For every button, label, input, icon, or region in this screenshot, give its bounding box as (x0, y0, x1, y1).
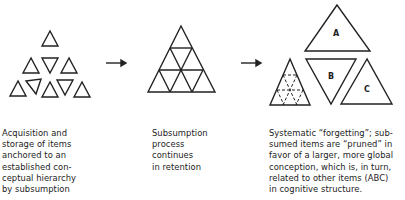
item-triangle-inverted (42, 58, 58, 73)
caption-forgetting: Systematic “forgetting”; sub- sumed item… (269, 128, 393, 195)
caption-line: sumed items are “pruned” in (269, 139, 393, 150)
item-b-label: B (328, 72, 334, 81)
item-triangle-inverted (57, 80, 73, 95)
item-b-triangle (306, 59, 356, 104)
item-triangle (23, 58, 39, 73)
caption-line: continues (152, 150, 208, 161)
subsumed-hierarchy-triangle (148, 26, 215, 92)
right-arrow-icon (106, 60, 126, 66)
caption-line: Subsumption (152, 128, 208, 139)
caption-line: related to other items (ABC) (269, 173, 393, 184)
item-triangle (42, 82, 58, 97)
item-c-triangle (341, 59, 392, 104)
caption-line: by subsumption (2, 184, 76, 195)
caption-line: storage of items (2, 139, 76, 150)
caption-line: in cognitive structure. (269, 184, 393, 195)
caption-line: conception, which is, in turn, (269, 162, 393, 173)
caption-subsumption: Subsumption process continues in retenti… (152, 128, 208, 173)
caption-line: Acquisition and (2, 128, 76, 139)
caption-acquisition: Acquisition and storage of items anchore… (2, 128, 76, 195)
separate-items-cluster (10, 31, 90, 97)
item-triangle (10, 81, 26, 96)
item-c-label: C (364, 85, 370, 94)
item-triangle (74, 82, 90, 97)
caption-line: process (152, 139, 208, 150)
caption-line: in retention (152, 162, 208, 173)
caption-line: established con- (2, 162, 76, 173)
item-a-triangle (305, 5, 370, 51)
pruned-triangle (270, 59, 310, 105)
item-a-label: A (333, 29, 340, 38)
caption-line: Systematic “forgetting”; sub- (269, 128, 393, 139)
caption-line: favor of a larger, more global (269, 150, 393, 161)
caption-line: anchored to an (2, 150, 76, 161)
caption-line: ceptual hierarchy (2, 173, 76, 184)
right-arrow-icon (241, 60, 261, 66)
item-triangle (61, 58, 77, 73)
item-triangle (42, 31, 58, 46)
item-triangle-inverted (26, 79, 41, 94)
